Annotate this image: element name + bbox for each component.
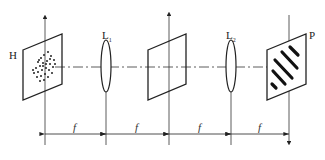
output-plane [267,15,306,143]
optical-system-diagram [0,0,325,160]
dimension-label-f4: f [258,122,261,133]
dimension-label-f2: f [135,122,138,133]
lens-l2 [226,40,236,145]
label-h: H [9,50,17,61]
label-l2: L2 [226,30,236,43]
dimension-label-f1: f [73,122,76,133]
speckle-dots [32,51,56,82]
label-l1: L1 [102,30,112,43]
label-p: P [309,30,315,41]
fourier-plane [148,14,186,145]
hologram-plane [23,17,62,145]
dimension-label-f3: f [198,122,201,133]
lens-l1 [101,40,111,145]
